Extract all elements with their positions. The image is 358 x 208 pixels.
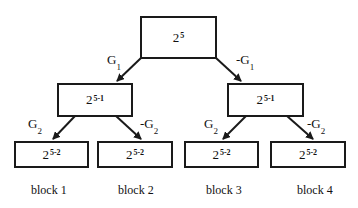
edge-label-g2-left: G2: [28, 116, 42, 134]
node-exp: 5-2: [50, 148, 61, 157]
block-2-label: block 2: [118, 183, 154, 198]
edge-l-right: [116, 116, 141, 139]
edge-l-left: [53, 116, 75, 139]
edge-label-neg-g2-right: -G2: [307, 116, 325, 134]
block-1-label: block 1: [31, 183, 67, 198]
node-base: 2: [256, 92, 263, 108]
edge-label-neg-g1: -G1: [236, 52, 254, 70]
node-base: 2: [42, 147, 49, 163]
node-exp: 5-1: [264, 94, 275, 103]
root-node: 25: [140, 16, 217, 59]
root-exp: 5: [180, 31, 184, 40]
edge-label-g1: G1: [107, 52, 121, 70]
level2-node-3: 25-2: [184, 141, 259, 168]
edge-r-left: [223, 116, 246, 139]
level1-left-node: 25-1: [57, 83, 133, 117]
block-4-label: block 4: [297, 183, 333, 198]
edge-label-neg-g2-left: -G2: [140, 116, 158, 134]
node-exp: 5-2: [220, 148, 231, 157]
level2-node-4: 25-2: [270, 141, 346, 168]
node-base: 2: [86, 92, 93, 108]
node-base: 2: [212, 147, 219, 163]
node-exp: 5-2: [133, 148, 144, 157]
edge-label-g2-right: G2: [204, 116, 218, 134]
node-exp: 5-2: [306, 148, 317, 157]
level2-node-2: 25-2: [97, 141, 173, 168]
node-base: 2: [299, 147, 306, 163]
root-base: 2: [173, 30, 180, 46]
level2-node-1: 25-2: [14, 141, 89, 168]
level1-right-node: 25-1: [227, 83, 304, 117]
node-base: 2: [126, 147, 133, 163]
block-3-label: block 3: [206, 183, 242, 198]
node-exp: 5-1: [93, 94, 104, 103]
